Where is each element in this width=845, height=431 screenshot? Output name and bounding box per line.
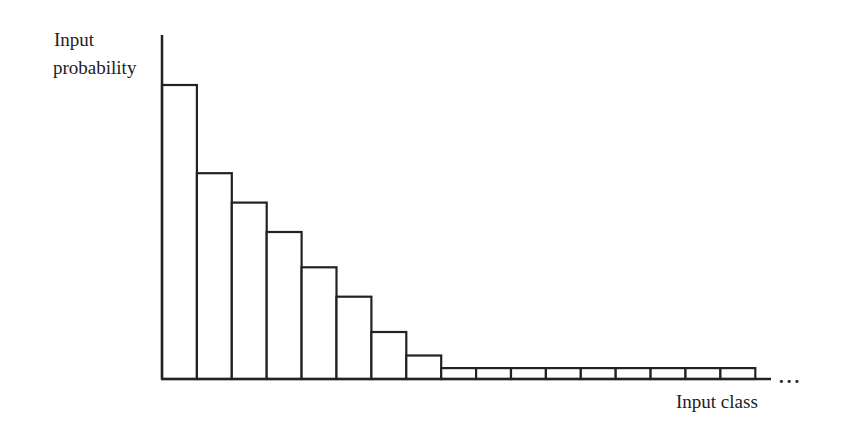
y-axis-label-line1: Input bbox=[54, 30, 94, 49]
x-axis-label: Input class bbox=[676, 392, 758, 411]
bars-group bbox=[162, 85, 755, 379]
bar-14 bbox=[616, 368, 651, 379]
bar-15 bbox=[651, 368, 686, 379]
bar-10 bbox=[476, 368, 511, 379]
x-axis-continuation-ellipsis: ... bbox=[779, 367, 802, 386]
bar-6 bbox=[337, 297, 372, 379]
bar-9 bbox=[441, 368, 476, 379]
bar-1 bbox=[162, 85, 197, 379]
bar-7 bbox=[371, 332, 406, 379]
bar-5 bbox=[302, 267, 337, 379]
bar-3 bbox=[232, 203, 267, 379]
bar-17 bbox=[720, 368, 755, 379]
bar-2 bbox=[197, 173, 232, 379]
bar-11 bbox=[511, 368, 546, 379]
bar-12 bbox=[546, 368, 581, 379]
bar-16 bbox=[686, 368, 721, 379]
y-axis-label-line2: probability bbox=[53, 58, 136, 77]
bar-4 bbox=[267, 232, 302, 379]
bar-8 bbox=[406, 356, 441, 380]
bar-13 bbox=[581, 368, 616, 379]
